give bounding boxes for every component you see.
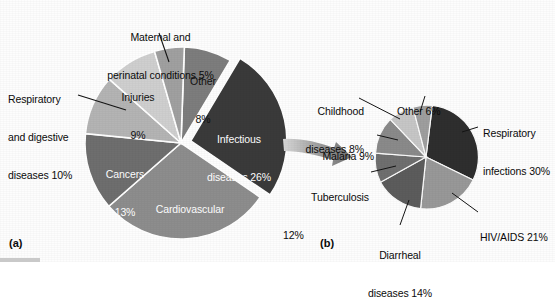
label-respiratory-b-line2: infections 30% [483, 165, 555, 178]
label-hiv-aids: HIV/AIDS 21% [480, 206, 555, 269]
label-maternal-line1: Maternal and [93, 31, 228, 44]
scan-edge-artifact [0, 258, 40, 262]
label-injuries-line1: Injuries [108, 91, 168, 104]
label-hivaids-line1: HIV/AIDS 21% [480, 231, 555, 244]
label-respiratory-line1: Respiratory [8, 93, 118, 106]
label-childhood-line1: Childhood [278, 105, 364, 118]
leader-line-childhood [359, 98, 400, 119]
label-respiratory-infections: Respiratory infections 30% [483, 102, 555, 203]
label-other-b-line1: Other 6% [397, 105, 467, 118]
panel-label-a: (a) [9, 237, 22, 249]
label-diarrheal-diseases: Diarrheal diseases 14% [355, 224, 445, 301]
label-cardiovascular-diseases: Cardiovascular diseases 29% [140, 178, 240, 279]
label-other-b: Other 6% [397, 80, 467, 143]
label-tuberculosis-line1: Tuberculosis [283, 191, 369, 204]
panel-label-b: (b) [320, 237, 334, 249]
label-malaria-line1: Malaria 9% [296, 150, 374, 163]
label-other-a-line1: Other [178, 75, 228, 88]
label-respiratory-line2: and digestive [8, 131, 118, 144]
label-cardio-line2: diseases 29% [140, 241, 240, 254]
leader-line-hivaids [452, 193, 478, 212]
label-cardio-line1: Cardiovascular [140, 203, 240, 216]
label-injuries-line2: 9% [108, 129, 168, 142]
label-infectious-line1: Infectious [196, 133, 282, 146]
label-diarrheal-line1: Diarrheal [355, 249, 445, 262]
label-respiratory-b-line1: Respiratory [483, 127, 555, 140]
label-diarrheal-line2: diseases 14% [355, 287, 445, 300]
